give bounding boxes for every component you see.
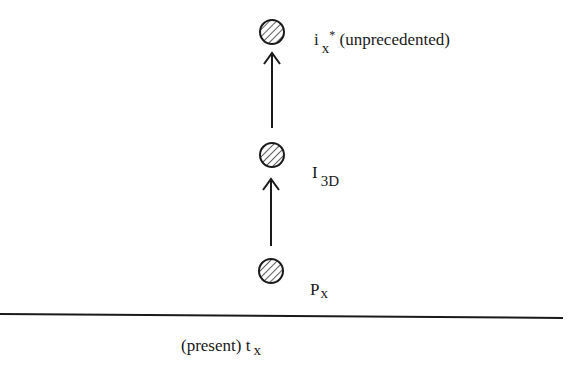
- node-I3D-label: I3D: [312, 163, 339, 183]
- node-I3D-circle: [260, 143, 284, 167]
- arrow-Px-to-I3D: [263, 179, 279, 246]
- node-Px-subscript: x: [320, 285, 328, 301]
- node-ix-superscript: *: [329, 28, 335, 42]
- node-ix-circle: [260, 20, 284, 44]
- timeline-label: (present) tx: [181, 336, 261, 356]
- timeline-base: t: [246, 336, 251, 355]
- node-Px-base: P: [310, 280, 319, 299]
- node-Px-circle: [259, 259, 283, 283]
- node-I3D-base: I: [312, 163, 318, 182]
- timeline-prefix: (present): [181, 336, 246, 355]
- node-Px-label: Px: [310, 280, 328, 300]
- timeline-axis: [0, 314, 563, 318]
- diagram-canvas: [0, 0, 581, 367]
- node-ix-suffix: (unprecedented): [335, 30, 450, 49]
- node-ix-subscript: x: [322, 40, 330, 56]
- node-ix-base: i: [314, 30, 319, 49]
- arrow-I3D-to-ix: [264, 53, 280, 128]
- timeline-subscript: x: [253, 342, 261, 358]
- node-I3D-subscript: 3D: [321, 173, 339, 189]
- node-ix-label: ix* (unprecedented): [314, 30, 450, 50]
